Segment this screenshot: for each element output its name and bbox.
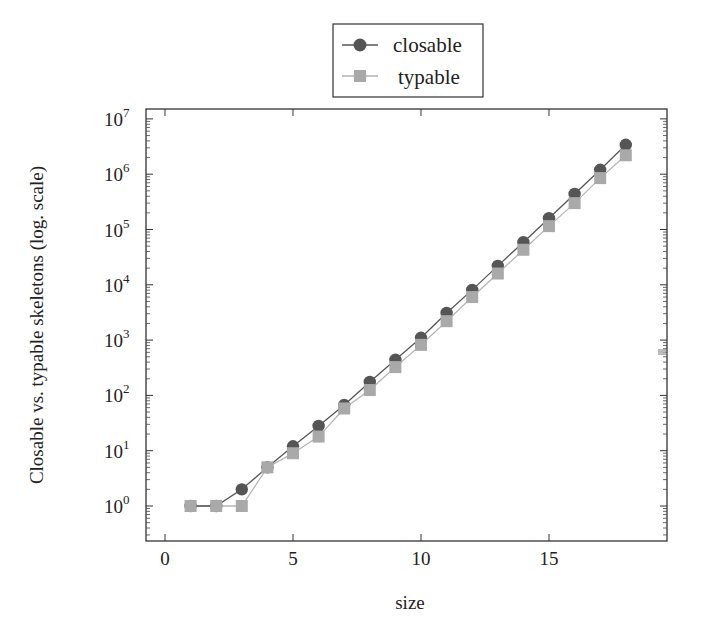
y-tick-label: 102 bbox=[104, 381, 130, 406]
closable-point bbox=[620, 139, 632, 151]
x-tick-label: 5 bbox=[288, 548, 298, 569]
typable-point bbox=[313, 431, 325, 443]
x-axis-title: size bbox=[395, 592, 425, 613]
typable-point bbox=[492, 268, 504, 280]
typable-point bbox=[185, 500, 197, 512]
typable-point bbox=[389, 361, 401, 373]
y-tick-label: 103 bbox=[104, 326, 130, 351]
typable-point bbox=[364, 384, 376, 396]
typable-point bbox=[543, 220, 555, 232]
x-tick-label: 15 bbox=[540, 548, 559, 569]
circle-marker-icon bbox=[354, 39, 367, 52]
series-lines bbox=[191, 145, 626, 506]
closable-point bbox=[236, 483, 248, 495]
axis-tick-labels: 051015100101102103104105106107 bbox=[104, 105, 559, 569]
square-marker-icon bbox=[354, 70, 366, 82]
typable-point bbox=[517, 244, 529, 256]
legend-label-closable: closable bbox=[393, 33, 462, 57]
axis-ticks bbox=[146, 109, 667, 541]
series-line-closable bbox=[191, 145, 626, 506]
typable-point bbox=[287, 447, 299, 459]
y-tick-label: 101 bbox=[104, 437, 130, 462]
y-tick-label: 100 bbox=[104, 492, 130, 517]
typable-point bbox=[620, 149, 632, 161]
y-axis-title: Closable vs. typable skeletons (log. sca… bbox=[26, 166, 48, 484]
typable-point bbox=[569, 197, 581, 209]
legend-label-typable: typable bbox=[398, 65, 460, 89]
series-markers bbox=[184, 139, 632, 513]
y-tick-label: 105 bbox=[104, 216, 130, 241]
typable-point bbox=[415, 339, 427, 351]
typable-point bbox=[594, 172, 606, 184]
y-tick-label: 107 bbox=[104, 105, 130, 130]
chart: closable typable 05101510010110210310410… bbox=[0, 0, 712, 642]
typable-point bbox=[261, 461, 273, 473]
x-tick-label: 10 bbox=[412, 548, 431, 569]
x-tick-label: 0 bbox=[160, 548, 170, 569]
typable-point bbox=[338, 402, 350, 414]
legend: closable typable bbox=[333, 24, 483, 97]
closable-point bbox=[312, 420, 324, 432]
scan-artifact bbox=[658, 349, 666, 355]
y-tick-label: 104 bbox=[104, 271, 130, 296]
typable-point bbox=[466, 291, 478, 303]
y-tick-label: 106 bbox=[104, 160, 130, 185]
typable-point bbox=[441, 315, 453, 327]
plot-frame bbox=[146, 109, 667, 541]
typable-point bbox=[210, 500, 222, 512]
typable-point bbox=[236, 500, 248, 512]
